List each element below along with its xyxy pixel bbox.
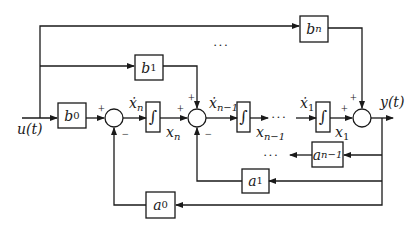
b1-label: b1 (135, 55, 163, 80)
x1-dot-label: ẋ1 (300, 96, 314, 113)
b0-label: b0 (58, 103, 86, 128)
sum-junction-2 (188, 109, 206, 127)
input-label: u(t) (17, 122, 43, 136)
sum2-plus-left-sign: + (177, 103, 184, 115)
sum3-plus-left-sign: + (341, 103, 348, 115)
sum2-minus-sign: − (205, 128, 212, 140)
integrator-2-symbol: ∫ (237, 102, 250, 132)
sum-junction-1 (105, 109, 123, 127)
xn1-dot-label: ẋn−1 (209, 96, 238, 113)
a1-label: a1 (242, 169, 269, 193)
output-label: y(t) (380, 95, 404, 109)
sum2-plus-top-sign: + (188, 92, 195, 104)
xn-label: xn (166, 125, 180, 142)
bn-label: bn (300, 16, 328, 42)
x1-label: x1 (335, 125, 349, 142)
sum3-plus-top-sign: + (350, 92, 357, 104)
sum-junction-3 (353, 109, 371, 127)
block-diagram: b0 b1 bn an−1 a1 a0 ∫ ∫ ∫ u(t) y(t) ẋn x… (0, 0, 417, 231)
ellipsis-chain: ··· (271, 110, 287, 123)
an1-label: an−1 (312, 142, 343, 167)
ellipsis-top: ··· (213, 38, 229, 51)
xn1-label: xn−1 (256, 125, 285, 142)
sum1-plus-sign: + (98, 103, 105, 115)
a0-label: a0 (146, 192, 175, 218)
xn-dot-label: ẋn (129, 96, 143, 113)
integrator-3-symbol: ∫ (316, 102, 330, 132)
ellipsis-feedback: ··· (263, 148, 279, 161)
integrator-1-symbol: ∫ (146, 102, 160, 132)
sum1-minus-sign: − (122, 128, 129, 140)
